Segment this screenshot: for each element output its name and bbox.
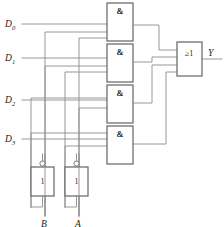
wire-group-data-inputs [22,24,107,139]
wire-and0-out [133,25,177,50]
circuit-svg: & & & & ≥1 [0,0,224,227]
wire-and1-out [133,57,177,62]
input-label-d0: D0 [4,19,16,31]
wire-and3-out [133,72,177,144]
input-label-d3: D3 [4,134,16,146]
and-gate-1[interactable]: & [107,44,133,82]
inverter-a[interactable]: 1 [65,154,88,207]
and-gate-2[interactable]: & [107,85,133,123]
logic-diagram-canvas: & & & & ≥1 [0,0,224,227]
wire-group-and-to-or [133,25,177,144]
inverter-b-bubble-icon [40,161,45,166]
input-label-a: A [74,219,81,227]
wire-inverter-b-out [31,196,43,207]
label-group-inputs: D0 D1 D2 D3 [4,19,16,146]
or-gate-symbol: ≥1 [185,49,193,58]
and-gate-2-symbol: & [116,88,123,98]
and-gate-3[interactable]: & [107,126,133,164]
input-label-d1: D1 [4,53,15,65]
wire-a-true-to-and2 [79,108,107,216]
or-gate-body[interactable] [177,42,202,76]
and-gate-3-symbol: & [116,129,123,139]
input-label-d2: D2 [4,95,16,107]
output-label-y: Y [208,48,215,58]
and-gate-1-symbol: & [116,47,123,57]
and-gate-0-symbol: & [116,6,123,16]
wire-inverter-a-out [65,196,77,207]
inverter-b[interactable]: 1 [31,154,54,207]
inverter-b-symbol: 1 [41,177,45,186]
inverter-a-bubble-icon [74,161,79,166]
input-label-b: B [41,219,47,227]
and-gate-0[interactable]: & [107,3,133,41]
or-gate[interactable]: ≥1 [177,42,202,76]
wire-and2-out [133,65,177,103]
inverter-a-symbol: 1 [75,177,79,186]
